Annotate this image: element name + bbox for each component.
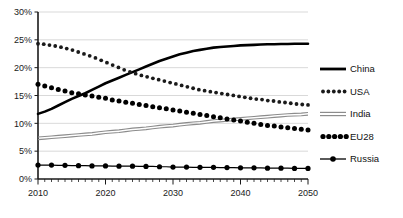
- series-dot: [258, 122, 263, 127]
- series-marker: [305, 166, 310, 171]
- series-dot: [162, 79, 166, 83]
- series-dot: [99, 58, 103, 62]
- series-dot: [90, 94, 95, 99]
- series-dot: [111, 63, 115, 67]
- series-dot: [94, 56, 98, 60]
- series-marker: [143, 164, 148, 169]
- series-dot: [103, 96, 108, 101]
- series-marker: [251, 165, 256, 170]
- series-dot: [168, 81, 172, 85]
- series-marker: [130, 164, 135, 169]
- y-axis-tick-label: 25%: [14, 35, 32, 45]
- series-dot: [117, 66, 121, 70]
- chart-container: 0%5%10%15%20%25%30%20102020203020402050C…: [0, 0, 403, 218]
- legend-swatch-dot: [344, 134, 349, 139]
- series-marker: [238, 165, 243, 170]
- series-dot: [76, 91, 81, 96]
- series-dot: [231, 94, 235, 98]
- series-dot: [265, 123, 270, 128]
- series-dot: [42, 84, 47, 89]
- series-dot: [63, 89, 68, 94]
- series-dot: [231, 117, 236, 122]
- series-dot: [245, 120, 250, 125]
- series-dot: [238, 119, 243, 124]
- series-marker: [197, 165, 202, 170]
- series-marker: [157, 164, 162, 169]
- series-russia: [35, 162, 310, 171]
- series-dot: [59, 45, 63, 49]
- series-marker: [116, 164, 121, 169]
- legend-swatch-dot: [321, 90, 325, 94]
- x-axis-tick-label: 2040: [230, 188, 250, 198]
- series-marker: [49, 162, 54, 167]
- series-dot: [218, 115, 223, 120]
- series-dot: [96, 95, 101, 100]
- series-dot: [260, 98, 264, 102]
- series-dot: [128, 70, 132, 74]
- series-dot: [76, 50, 80, 54]
- series-marker: [292, 166, 297, 171]
- x-axis-tick-label: 2010: [28, 188, 48, 198]
- series-marker: [103, 163, 108, 168]
- y-axis-tick-label: 15%: [14, 91, 32, 101]
- legend-label: India: [350, 108, 371, 119]
- series-dot: [191, 86, 195, 90]
- series-dot: [145, 75, 149, 79]
- series-marker: [184, 164, 189, 169]
- legend-item-eu28: EU28: [320, 131, 373, 142]
- series-dot: [204, 113, 209, 118]
- series-dot: [211, 114, 216, 119]
- series-dot: [306, 128, 311, 133]
- series-marker: [224, 165, 229, 170]
- series-dot: [137, 102, 142, 107]
- series-dot: [164, 106, 169, 111]
- legend-swatch-dot: [337, 90, 341, 94]
- legend-label: Russia: [350, 153, 380, 164]
- series-dot: [71, 48, 75, 52]
- series-dot: [198, 112, 203, 117]
- series-dot: [117, 99, 122, 104]
- series-marker: [76, 163, 81, 168]
- series-dot: [226, 93, 230, 97]
- series-dot: [243, 95, 247, 99]
- series-dot: [82, 52, 86, 56]
- x-axis-tick-label: 2030: [163, 188, 183, 198]
- series-dot: [283, 101, 287, 105]
- legend-item-usa: USA: [321, 86, 370, 97]
- series-dot: [105, 61, 109, 65]
- series-dot: [306, 103, 310, 107]
- series-dot: [157, 78, 161, 82]
- legend-item-russia: Russia: [320, 153, 380, 164]
- series-dot: [249, 96, 253, 100]
- legend-label: China: [350, 63, 376, 74]
- series-dot: [220, 92, 224, 96]
- series-marker: [89, 163, 94, 168]
- legend-swatch-dot: [320, 134, 325, 139]
- series-dot: [295, 102, 299, 106]
- legend-label: EU28: [350, 131, 374, 142]
- series-dot: [252, 121, 257, 126]
- series-marker: [211, 165, 216, 170]
- legend-swatch-dot: [326, 134, 331, 139]
- series-dot: [157, 105, 162, 110]
- series-dot: [225, 116, 230, 121]
- series-dot: [53, 44, 57, 48]
- x-axis-ticks: [38, 179, 308, 185]
- series-dot: [151, 76, 155, 80]
- legend-swatch-dot: [343, 90, 347, 94]
- series-dot: [285, 125, 290, 130]
- legend-item-india: India: [320, 108, 371, 119]
- series-marker: [35, 162, 40, 167]
- legend-swatch-dot: [332, 134, 337, 139]
- x-axis-tick-label: 2050: [298, 188, 318, 198]
- y-axis-tick-label: 20%: [14, 63, 32, 73]
- series-dot: [48, 43, 52, 47]
- series-dot: [83, 92, 88, 97]
- series-dot: [300, 103, 304, 107]
- series-dot: [272, 99, 276, 103]
- series-dot: [42, 42, 46, 46]
- series-marker: [278, 166, 283, 171]
- series-dot: [144, 103, 149, 108]
- series-marker: [62, 163, 67, 168]
- y-axis-tick-label: 10%: [14, 119, 32, 129]
